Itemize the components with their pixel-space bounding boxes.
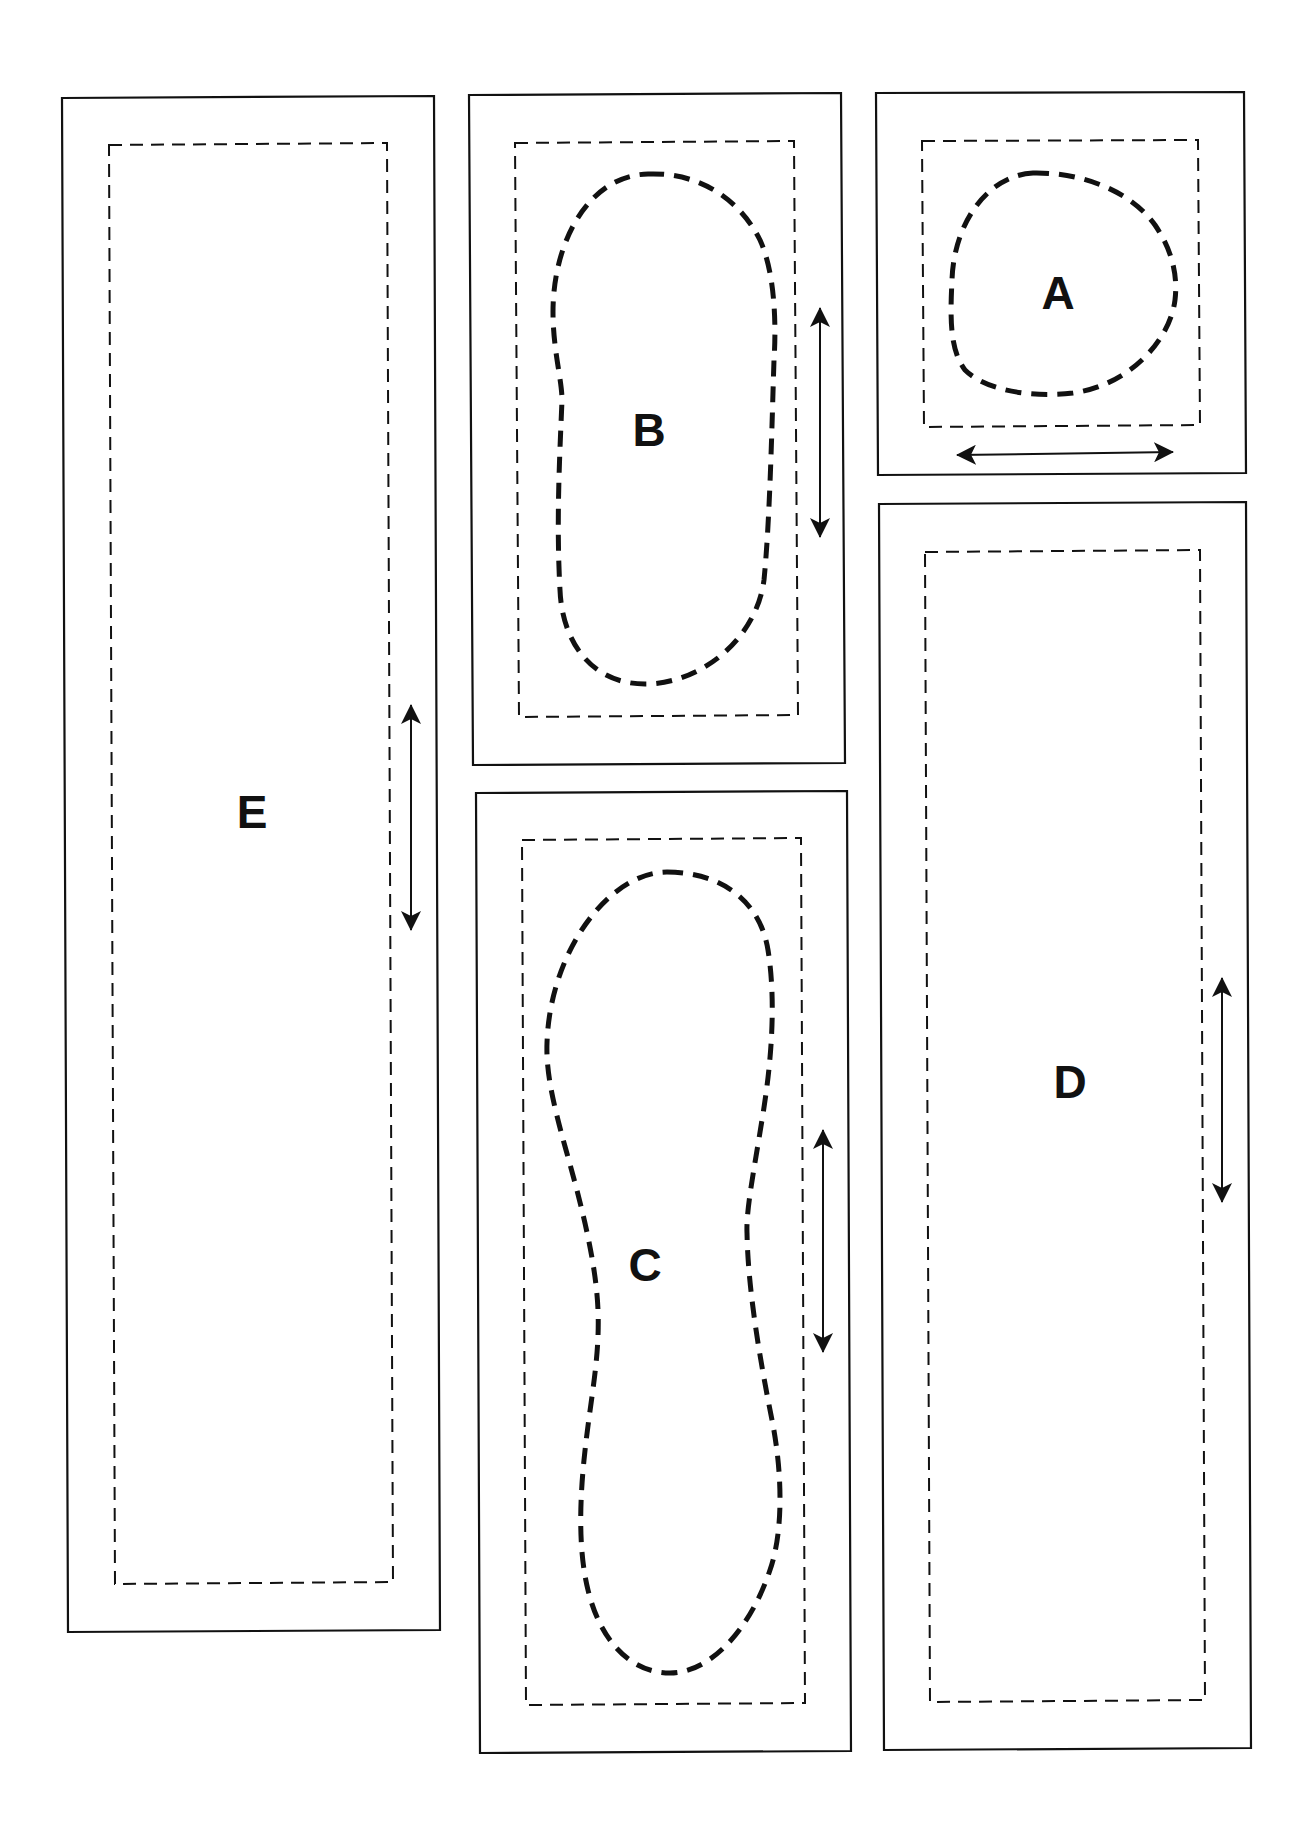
piece-a: A bbox=[876, 92, 1246, 475]
piece-e-outline bbox=[62, 96, 440, 1632]
piece-e: E bbox=[62, 96, 440, 1632]
piece-c: C bbox=[476, 791, 851, 1753]
piece-c-cutout-shape bbox=[547, 872, 780, 1673]
piece-b-label: B bbox=[632, 404, 665, 456]
piece-b: B bbox=[469, 93, 845, 765]
piece-a-label: A bbox=[1041, 267, 1074, 319]
piece-a-grain-arrow-icon bbox=[957, 452, 1173, 455]
piece-d: D bbox=[879, 502, 1251, 1750]
piece-d-label: D bbox=[1053, 1056, 1086, 1108]
pattern-diagram: E B A C D bbox=[0, 0, 1313, 1827]
piece-d-seam-line bbox=[925, 550, 1205, 1702]
piece-e-label: E bbox=[237, 786, 268, 838]
piece-c-outline bbox=[476, 791, 851, 1753]
piece-e-seam-line bbox=[109, 143, 393, 1584]
piece-d-outline bbox=[879, 502, 1251, 1750]
piece-c-label: C bbox=[628, 1239, 661, 1291]
